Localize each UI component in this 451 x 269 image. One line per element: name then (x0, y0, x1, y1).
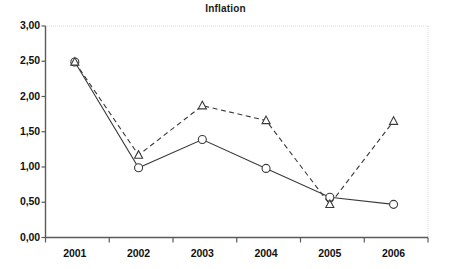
plot-frame (45, 26, 428, 237)
x-axis-tick-label: 2006 (364, 247, 424, 259)
x-axis-tick-label: 2001 (45, 247, 105, 259)
data-point-marker-triangle (198, 101, 206, 109)
y-axis-tick-label: 2,50 (0, 54, 40, 66)
series-line (75, 62, 394, 204)
data-point-marker-circle (262, 164, 270, 172)
x-axis-tick-label: 2005 (300, 247, 360, 259)
y-axis-tick-label: 3,00 (0, 19, 40, 31)
data-point-marker-triangle (390, 117, 398, 125)
series-dashed-triangle (71, 58, 398, 208)
x-axis-tick-label: 2003 (172, 247, 232, 259)
data-point-marker-triangle (135, 151, 143, 159)
data-point-marker-circle (390, 200, 398, 208)
y-axis-tick-label: 0,00 (0, 231, 40, 243)
y-axis-tick-label: 0,50 (0, 195, 40, 207)
chart-figure: Inflation 0,000,501,001,502,002,503,00 2… (0, 0, 451, 269)
data-point-marker-circle (135, 164, 143, 172)
plot-area (0, 0, 451, 269)
y-axis-tick-label: 1,00 (0, 160, 40, 172)
x-axis-tick-label: 2004 (236, 247, 296, 259)
data-series-group (71, 58, 398, 209)
series-line (75, 62, 394, 204)
y-axis-tick-label: 2,00 (0, 90, 40, 102)
series-solid-circle (71, 58, 398, 208)
data-point-marker-circle (198, 136, 206, 144)
y-axis-tick-label: 1,50 (0, 125, 40, 137)
x-axis-ticks (46, 238, 429, 243)
x-axis-tick-label: 2002 (109, 247, 169, 259)
axes (42, 26, 429, 243)
